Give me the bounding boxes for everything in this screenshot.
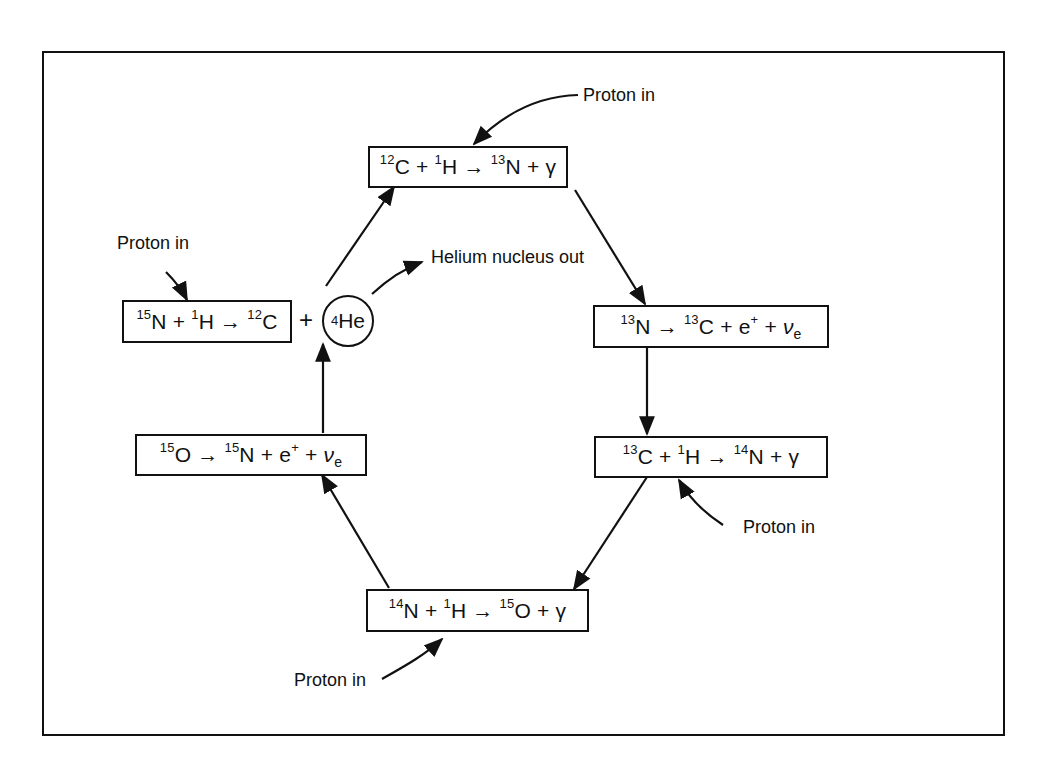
reaction-equation: 13C + 1H → 14N + γ (623, 445, 799, 469)
helium-symbol: He (338, 309, 365, 333)
reaction-equation: 15O → 15N + e+ + νe (160, 443, 342, 467)
reaction-box-r6: 15N + 1H → 12C (122, 300, 292, 343)
reaction-box-r2: 13N → 13C + e+ + νe (593, 305, 829, 348)
helium-nucleus-circle: 4He (322, 295, 374, 347)
reaction-equation: 13N → 13C + e+ + νe (620, 315, 801, 339)
label-helium-out: Helium nucleus out (431, 247, 584, 268)
cycle-arrows (0, 0, 1042, 764)
label-proton-in-top: Proton in (583, 85, 655, 106)
label-proton-in-right: Proton in (743, 517, 815, 538)
reaction-box-r3: 13C + 1H → 14N + γ (594, 436, 828, 478)
reaction-box-r5: 15O → 15N + e+ + νe (135, 434, 367, 476)
arrow-r6-to-r1 (326, 187, 394, 286)
arrow-proton-in-right (679, 480, 723, 525)
arrow-proton-in-top (474, 95, 578, 144)
arrow-r4-to-r5 (322, 475, 389, 588)
reaction-equation: 14N + 1H → 15O + γ (389, 599, 567, 623)
arrow-proton-in-bottom (382, 639, 442, 679)
arrow-helium-out (372, 262, 422, 294)
reaction-equation: 12C + 1H → 13N + γ (380, 155, 556, 179)
label-proton-in-bottom: Proton in (294, 670, 366, 691)
reaction-box-r1: 12C + 1H → 13N + γ (368, 146, 568, 188)
plus-sign: + (299, 306, 313, 334)
reaction-equation: 15N + 1H → 12C (136, 310, 277, 334)
arrow-r1-to-r2 (575, 190, 645, 304)
reaction-box-r4: 14N + 1H → 15O + γ (366, 589, 589, 632)
arrow-r3-to-r4 (574, 477, 647, 589)
label-proton-in-left: Proton in (117, 233, 189, 254)
arrow-proton-in-left (166, 272, 187, 300)
